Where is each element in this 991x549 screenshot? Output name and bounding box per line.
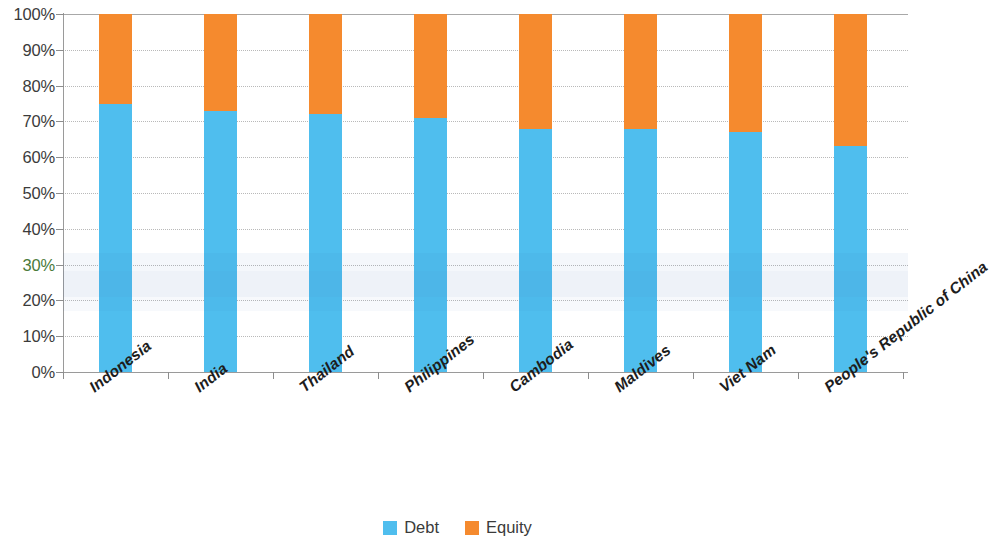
gridline-60 <box>63 157 908 158</box>
bar-segment-equity[interactable] <box>624 14 657 129</box>
plot-area <box>63 14 908 372</box>
gridline-30 <box>63 265 908 266</box>
gridline-90 <box>63 50 908 51</box>
bar-segment-debt[interactable] <box>729 132 762 372</box>
gridline-40 <box>63 229 908 230</box>
bar-group[interactable] <box>99 14 132 372</box>
y-axis-tick-label: 40% <box>3 219 55 238</box>
bar-segment-debt[interactable] <box>414 118 447 372</box>
legend-swatch-equity <box>465 521 479 535</box>
bar-group[interactable] <box>309 14 342 372</box>
bar-segment-equity[interactable] <box>834 14 867 146</box>
gridline-70 <box>63 121 908 122</box>
bar-group[interactable] <box>729 14 762 372</box>
gridline-20 <box>63 300 908 301</box>
gridline-10 <box>63 336 908 337</box>
bar-group[interactable] <box>519 14 552 372</box>
y-axis-tick-label: 50% <box>3 184 55 203</box>
legend-label-debt: Debt <box>404 518 439 537</box>
bar-segment-debt[interactable] <box>834 146 867 372</box>
y-axis-tick-label: 60% <box>3 148 55 167</box>
bar-segment-debt[interactable] <box>99 104 132 373</box>
bar-group[interactable] <box>624 14 657 372</box>
bar-segment-equity[interactable] <box>729 14 762 132</box>
y-axis-tick-label: 70% <box>3 112 55 131</box>
y-axis-tick-label: 10% <box>3 327 55 346</box>
bar-group[interactable] <box>414 14 447 372</box>
legend-item-debt[interactable]: Debt <box>383 518 439 537</box>
legend-item-equity[interactable]: Equity <box>465 518 532 537</box>
x-axis-line <box>63 372 908 373</box>
chart-legend: Debt Equity <box>0 518 915 537</box>
y-axis-tick-label: 0% <box>3 363 55 382</box>
bar-segment-debt[interactable] <box>309 114 342 372</box>
legend-label-equity: Equity <box>486 518 532 537</box>
bar-segment-equity[interactable] <box>309 14 342 114</box>
bar-segment-equity[interactable] <box>519 14 552 129</box>
y-axis-tick-label: 90% <box>3 40 55 59</box>
bar-group[interactable] <box>204 14 237 372</box>
y-axis-tick-label: 80% <box>3 76 55 95</box>
bar-group[interactable] <box>834 14 867 372</box>
gridline-50 <box>63 193 908 194</box>
bar-segment-equity[interactable] <box>204 14 237 111</box>
gridline-80 <box>63 86 908 87</box>
bar-segment-equity[interactable] <box>414 14 447 118</box>
gridline-100 <box>63 14 908 15</box>
y-axis-tick-label: 20% <box>3 291 55 310</box>
y-axis-labels: 100% 90% 80% 70% 60% 50% 40% 30% 20% 10%… <box>0 0 55 549</box>
y-axis-tick-label: 30% <box>3 255 55 274</box>
bar-segment-debt[interactable] <box>204 111 237 372</box>
bar-segment-equity[interactable] <box>99 14 132 104</box>
y-axis-tick-label: 100% <box>3 5 55 24</box>
bar-segment-debt[interactable] <box>519 129 552 372</box>
legend-swatch-debt <box>383 521 397 535</box>
bar-segment-debt[interactable] <box>624 129 657 372</box>
